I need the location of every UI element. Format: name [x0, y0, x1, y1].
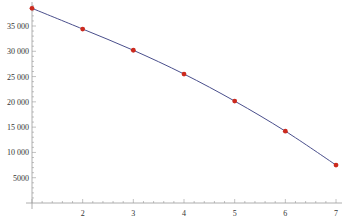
y-tick-label: 5000	[13, 174, 29, 183]
line-chart: 234567 500010 00015 00020 00025 00030 00…	[0, 0, 352, 222]
x-tick-label: 4	[182, 209, 186, 218]
data-point-marker	[182, 72, 187, 77]
y-tick-label: 10 000	[7, 148, 29, 157]
tick-marks	[32, 6, 336, 203]
fit-curve	[32, 8, 336, 165]
y-tick-label: 35 000	[7, 22, 29, 31]
data-point-marker	[232, 99, 237, 104]
data-point-marker	[334, 163, 339, 168]
data-point-marker	[131, 48, 136, 53]
axes	[26, 2, 342, 209]
x-tick-label: 2	[81, 209, 85, 218]
chart-container: 234567 500010 00015 00020 00025 00030 00…	[0, 0, 352, 222]
x-tick-label: 3	[131, 209, 135, 218]
y-tick-label: 15 000	[7, 123, 29, 132]
x-tick-label: 6	[283, 209, 287, 218]
data-point-marker	[80, 27, 85, 32]
y-tick-label: 20 000	[7, 98, 29, 107]
data-point-marker	[283, 129, 288, 134]
y-tick-label: 25 000	[7, 73, 29, 82]
data-point-marker	[30, 6, 35, 11]
x-tick-label: 5	[233, 209, 237, 218]
x-tick-labels: 234567	[81, 209, 338, 218]
data-points	[30, 6, 339, 168]
y-tick-label: 30 000	[7, 47, 29, 56]
y-tick-labels: 500010 00015 00020 00025 00030 00035 000	[7, 22, 29, 183]
x-tick-label: 7	[334, 209, 338, 218]
